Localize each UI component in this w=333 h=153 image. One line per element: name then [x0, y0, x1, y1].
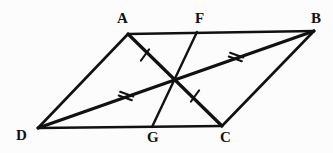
edge-bc-line: [222, 31, 314, 126]
diagonals: [38, 31, 314, 128]
vertex-label-f: F: [195, 11, 204, 26]
geometry-canvas: [0, 0, 333, 153]
vertex-label-g: G: [147, 130, 159, 145]
vertex-label-a: A: [117, 11, 128, 26]
edge-da-line: [38, 34, 128, 128]
vertex-label-b: B: [311, 11, 321, 26]
cevian-segments: [152, 32, 197, 127]
edge-cd-line: [38, 126, 222, 128]
vertex-label-c: C: [220, 130, 231, 145]
diagonal-db-line: [38, 31, 314, 128]
vertex-label-d: D: [16, 128, 27, 143]
edge-ab-line: [128, 31, 314, 34]
segment-fg-line: [152, 32, 197, 127]
geometry-figure: AFBDGC: [0, 0, 333, 153]
